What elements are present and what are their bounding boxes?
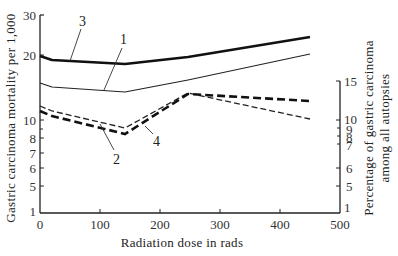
y2-tick-label: 1	[344, 200, 351, 215]
y-tick-label: 7	[30, 146, 37, 161]
y-axis-title: Gastric carcinoma mortality per 1,000	[3, 13, 18, 222]
y-tick-label: 1	[30, 204, 37, 219]
y-tick-label: 6	[30, 161, 37, 176]
series-lines	[40, 37, 310, 134]
x-tick-label: 0	[37, 217, 44, 232]
y2-tick-label: 6	[346, 161, 353, 176]
y2-axis-title-line2: among all autopsies	[377, 74, 392, 183]
series-2-label: 2	[113, 152, 120, 167]
y-tick-label: 10	[23, 113, 36, 128]
left-y-axis: 30 20 10 8 7 6 5 1	[23, 8, 44, 219]
series-labels: 3 1 2 4	[70, 14, 160, 167]
series-4-label: 4	[153, 134, 160, 149]
series-1-label: 1	[120, 32, 127, 47]
y-tick-label: 8	[30, 131, 37, 146]
x-tick-label: 200	[150, 217, 170, 232]
series-3-line	[40, 37, 310, 64]
y-tick-label: 5	[30, 179, 37, 194]
x-tick-label: 500	[330, 217, 350, 232]
y-tick-label: 20	[23, 48, 36, 63]
y2-tick-label: 7	[346, 138, 353, 153]
x-tick-label: 400	[270, 217, 290, 232]
y2-axis-title-line1: Percentage of gastric carcinoma	[361, 40, 376, 216]
right-y-axis: 15 10 9 8 7 6 5 1	[336, 74, 357, 215]
x-axis: 0 100 200 300 400 500 Radiation dose in …	[37, 209, 350, 250]
x-tick-label: 100	[90, 217, 110, 232]
series-3-label: 3	[79, 14, 86, 29]
y-tick-label: 30	[23, 8, 36, 23]
x-axis-title: Radiation dose in rads	[121, 235, 244, 250]
chart: 30 20 10 8 7 6 5 1 0 100 200 300 400 500…	[0, 0, 398, 256]
y2-tick-label: 15	[344, 74, 357, 89]
x-tick-label: 300	[210, 217, 230, 232]
y2-tick-label: 5	[346, 179, 353, 194]
